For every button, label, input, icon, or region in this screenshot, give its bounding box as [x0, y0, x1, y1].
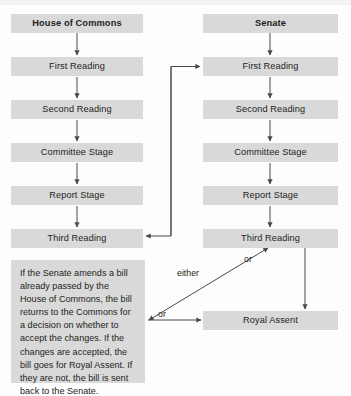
node-commons-report-stage[interactable]: Report Stage: [11, 186, 143, 205]
edge-label-or-bottom: or: [158, 309, 166, 319]
node-senate-third-reading[interactable]: Third Reading: [203, 229, 338, 248]
node-commons-second-reading[interactable]: Second Reading: [11, 100, 143, 119]
node-commons-header[interactable]: House of Commons: [11, 14, 143, 33]
note-senate-amendment: If the Senate amends a bill already pass…: [11, 260, 145, 383]
diagram-canvas: House of Commons First Reading Second Re…: [0, 0, 351, 396]
edge-label-or-top: or: [244, 254, 252, 264]
node-senate-header[interactable]: Senate: [203, 14, 338, 33]
node-commons-committee-stage[interactable]: Committee Stage: [11, 143, 143, 162]
node-commons-third-reading[interactable]: Third Reading: [11, 229, 143, 248]
node-senate-report-stage[interactable]: Report Stage: [203, 186, 338, 205]
node-senate-committee-stage[interactable]: Committee Stage: [203, 143, 338, 162]
edge-label-either: either: [177, 268, 199, 278]
node-senate-first-reading[interactable]: First Reading: [203, 57, 338, 76]
node-royal-assent[interactable]: Royal Assent: [203, 311, 338, 330]
node-senate-second-reading[interactable]: Second Reading: [203, 100, 338, 119]
node-commons-first-reading[interactable]: First Reading: [11, 57, 143, 76]
